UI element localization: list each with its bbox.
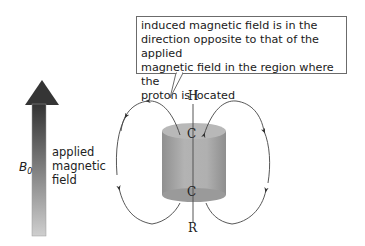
b0-label: B0 (19, 160, 32, 176)
atom-r: R (188, 221, 198, 235)
diagram-canvas: H C C R (0, 0, 365, 246)
atom-h: H (188, 89, 198, 103)
label-line-2: magnetic (52, 159, 106, 173)
applied-field-label: applied magnetic field (52, 145, 106, 187)
label-line-3: field (52, 173, 106, 187)
b0-subscript: 0 (27, 167, 32, 176)
atom-c-top: C (187, 127, 196, 141)
label-line-1: applied (52, 145, 106, 159)
callout-pointer (170, 73, 183, 98)
b0-symbol: B (19, 160, 27, 174)
atom-c-bottom: C (187, 185, 196, 199)
